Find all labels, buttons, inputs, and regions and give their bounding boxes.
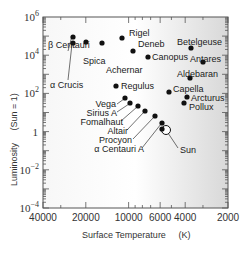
star-label: Canopus [152, 52, 189, 62]
star-label: α Centauri A [94, 144, 144, 154]
x-tick-label: 10000 [115, 212, 143, 223]
star-label: Deneb [138, 39, 165, 49]
x-tick-labels: 400002000010000600040002000 [29, 212, 239, 223]
y-tick-label: 1 [33, 126, 39, 138]
star-marker [135, 103, 140, 108]
star-marker [122, 95, 127, 100]
y-tick-labels: 106104102110−210−4 [19, 9, 39, 214]
star-label: Sun [180, 145, 196, 155]
star-label: Betelgeuse [177, 37, 222, 47]
y-tick-label: 10−2 [19, 162, 39, 176]
star-label: Achernar [106, 65, 143, 75]
y-tick-label: 106 [24, 9, 39, 23]
star-marker [166, 89, 171, 94]
y-axis-title: Luminosity (Sun = 1) [9, 93, 19, 186]
x-tick-label: 6000 [149, 212, 172, 223]
star-marker [142, 108, 147, 113]
hr-diagram: 106104102110−210−4 400002000010000600040… [0, 0, 248, 254]
star-marker [181, 100, 186, 105]
y-tick-label: 104 [24, 47, 39, 61]
star-label: Aldebaran [177, 69, 218, 79]
star-marker [113, 83, 118, 88]
star-label: Regulus [121, 81, 155, 91]
star-marker [152, 113, 157, 118]
x-tick-label: 40000 [29, 212, 57, 223]
star-marker [119, 35, 124, 40]
x-tick-label: 20000 [72, 212, 100, 223]
star-marker [184, 94, 189, 99]
star-marker [70, 34, 75, 39]
star-label: Spica [83, 56, 106, 66]
x-tick-label: 4000 [174, 212, 197, 223]
star-label: α Crucis [50, 80, 84, 90]
star-label: Antares [190, 54, 222, 64]
star-marker [127, 100, 132, 105]
star-label: Rigel [129, 28, 150, 38]
x-axis-title: Surface Temperature (K) [82, 230, 190, 240]
star-marker [99, 40, 104, 45]
star-marker [130, 48, 135, 53]
star-marker [145, 54, 150, 59]
y-tick-label: 102 [24, 85, 39, 99]
star-label: Pollux [189, 102, 214, 112]
star-label: β Centauri [48, 40, 90, 50]
star-marker [159, 120, 164, 125]
x-tick-label: 2000 [217, 212, 240, 223]
star-marker [159, 126, 164, 131]
